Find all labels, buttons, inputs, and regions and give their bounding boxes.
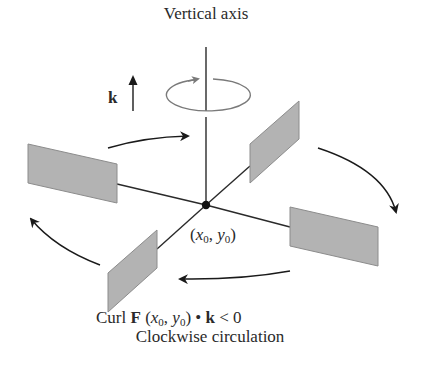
k-vector-arrow-icon: [129, 75, 138, 111]
circulation-arrow-top: [108, 136, 188, 148]
center-point: [202, 201, 210, 209]
paddle-left: [28, 144, 117, 203]
curl-word: Curl: [96, 308, 130, 327]
rotation-ellipse-icon: [166, 79, 250, 111]
paddle-right: [290, 207, 378, 266]
curl-diagram: Vertical axis k (x0, y0) Curl F (x0, y0)…: [0, 0, 427, 369]
separator: ,: [209, 225, 218, 244]
caption-curl-formula: Curl F (x0, y0) • k < 0: [96, 308, 346, 328]
paddle-upper-right: [250, 101, 299, 183]
vertical-axis-label: Vertical axis: [0, 4, 412, 24]
caption-y: y: [172, 308, 180, 327]
paddle-lower-left: [108, 230, 157, 312]
k-label: k: [108, 88, 117, 108]
point-label: (x0, y0): [190, 225, 236, 245]
caption-circulation: Clockwise circulation: [100, 327, 320, 347]
paren-close: ): [230, 225, 236, 244]
relation: < 0: [215, 308, 242, 327]
dot-operator: •: [191, 308, 205, 327]
y-variable: y: [217, 225, 225, 244]
circulation-arrow-right: [318, 148, 396, 212]
circulation-arrow-bottom: [180, 271, 290, 279]
args-open: (: [141, 308, 151, 327]
vector-k: k: [206, 308, 215, 327]
circulation-arrow-left: [31, 219, 100, 265]
vector-f: F: [130, 308, 140, 327]
